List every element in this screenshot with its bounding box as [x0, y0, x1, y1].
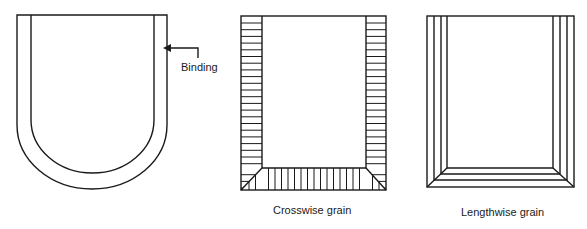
lengthwise-line-2	[441, 16, 560, 174]
lengthwise-inner	[447, 16, 553, 168]
miter-right	[366, 168, 386, 190]
lengthwise-outer	[427, 16, 574, 187]
lengthwise-caption: Lengthwise grain	[461, 206, 544, 218]
crosswise-inner	[262, 16, 366, 168]
pocket-outer-edge	[17, 15, 167, 189]
grain-stripes	[241, 23, 386, 190]
miter-left	[427, 168, 447, 187]
miter-right	[553, 168, 574, 187]
lengthwise-line-1	[434, 16, 567, 180]
binding-pocket-figure	[17, 15, 198, 189]
crosswise-caption: Crosswise grain	[273, 204, 351, 216]
diagram-canvas	[0, 0, 587, 229]
binding-arrow-leader	[168, 48, 198, 58]
lengthwise-grain-figure	[427, 16, 574, 187]
binding-label: Binding	[181, 61, 218, 73]
miter-left	[241, 168, 262, 190]
crosswise-grain-figure	[241, 16, 386, 190]
crosswise-outer	[241, 16, 386, 190]
pocket-inner-edge	[31, 15, 154, 173]
